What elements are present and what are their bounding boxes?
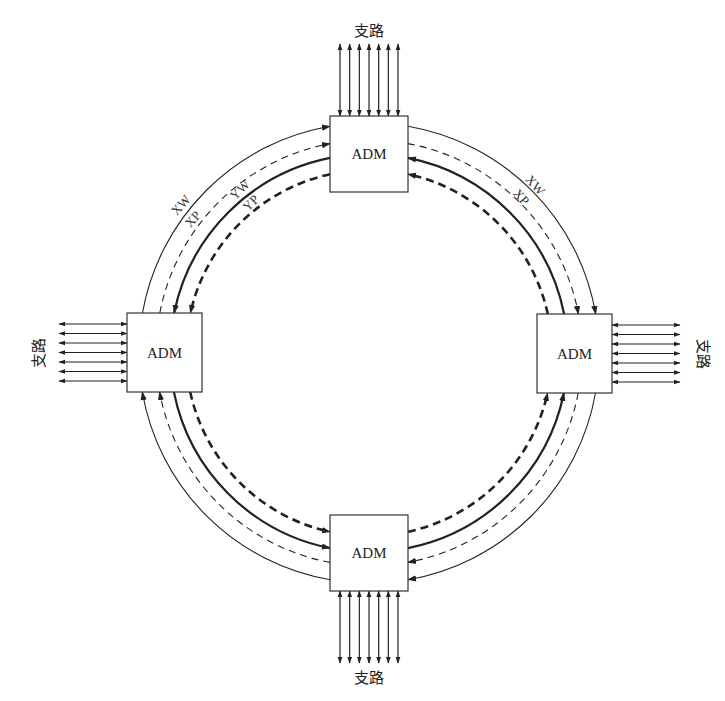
ring-xw-segment <box>142 392 330 580</box>
tributary-label-bottom: 支路 <box>354 669 384 687</box>
ring-xp-segment <box>160 392 330 562</box>
ring-yp-segment <box>190 392 330 532</box>
adm-label-bottom: ADM <box>351 545 386 561</box>
adm-label-top: ADM <box>351 146 386 162</box>
ring-xp-segment <box>408 393 578 562</box>
ring-yp-segment <box>190 174 330 313</box>
adm-label-right: ADM <box>557 346 592 362</box>
ring-xp-segment <box>160 144 330 313</box>
adm-label-left: ADM <box>147 345 182 361</box>
ring-xp-segment <box>408 144 578 314</box>
ring-xw-segment <box>408 393 596 580</box>
adm-ring-diagram: 支路支路支路支路 ADMADMADMADM XWXPYWYPXWXP <box>0 0 725 701</box>
ring-xw-segment <box>408 126 596 314</box>
tributary-label-left: 支路 <box>30 338 48 368</box>
ring-xw-segment <box>143 126 331 313</box>
tributary-label-top: 支路 <box>354 22 384 40</box>
ring-yp-segment <box>408 393 548 532</box>
tributary-label-right: 支路 <box>694 339 712 369</box>
